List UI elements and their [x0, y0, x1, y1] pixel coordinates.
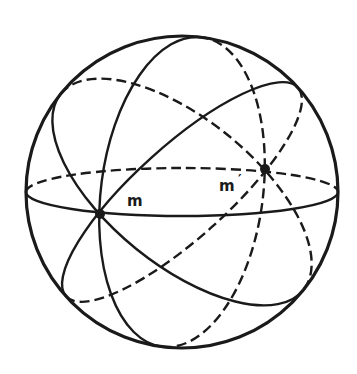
label-prime-mark: ′: [238, 172, 241, 186]
sphere-outline: [26, 36, 338, 348]
sphere-diagram: [0, 0, 357, 374]
point-m-prime: [260, 164, 270, 174]
equator: [26, 168, 338, 216]
circle-near-vertical: [82, 27, 283, 357]
circle-descending: [15, 37, 349, 347]
label-m-prime: m: [219, 179, 234, 194]
point-m: [95, 209, 105, 219]
circle-ascending: [35, 53, 328, 330]
intersection-points: [95, 164, 270, 219]
label-m: m: [127, 194, 142, 209]
great-circles: [15, 27, 349, 357]
